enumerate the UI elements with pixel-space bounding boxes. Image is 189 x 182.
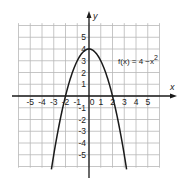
y-tick-label: 5 — [81, 32, 86, 42]
parabola-chart: -5-4-3-2-101234554321-1-2-3-4-5 x y f(x)… — [0, 0, 189, 182]
x-tick-label: -5 — [26, 97, 34, 107]
y-tick-label: -4 — [78, 138, 86, 148]
function-label-base: f(x) = 4 −x — [118, 57, 154, 66]
x-tick-label: 4 — [134, 97, 139, 107]
function-label-exponent: 2 — [154, 54, 158, 61]
x-tick-label: -4 — [38, 97, 46, 107]
x-tick-label: 1 — [98, 97, 103, 107]
axes — [12, 11, 177, 178]
y-tick-label: -5 — [78, 150, 86, 160]
y-tick-label: 3 — [81, 56, 86, 66]
y-axis-label: y — [92, 11, 98, 21]
y-tick-label: -1 — [78, 103, 86, 113]
x-axis-label: x — [169, 82, 175, 92]
y-tick-label: -3 — [78, 126, 86, 136]
x-tick-label: -3 — [50, 97, 58, 107]
x-tick-label: 5 — [145, 97, 150, 107]
x-tick-label: 3 — [122, 97, 127, 107]
y-tick-label: 2 — [81, 68, 86, 78]
y-tick-label: -2 — [78, 115, 86, 125]
y-tick-label: 1 — [81, 79, 86, 89]
x-tick-label: 0 — [90, 97, 95, 107]
